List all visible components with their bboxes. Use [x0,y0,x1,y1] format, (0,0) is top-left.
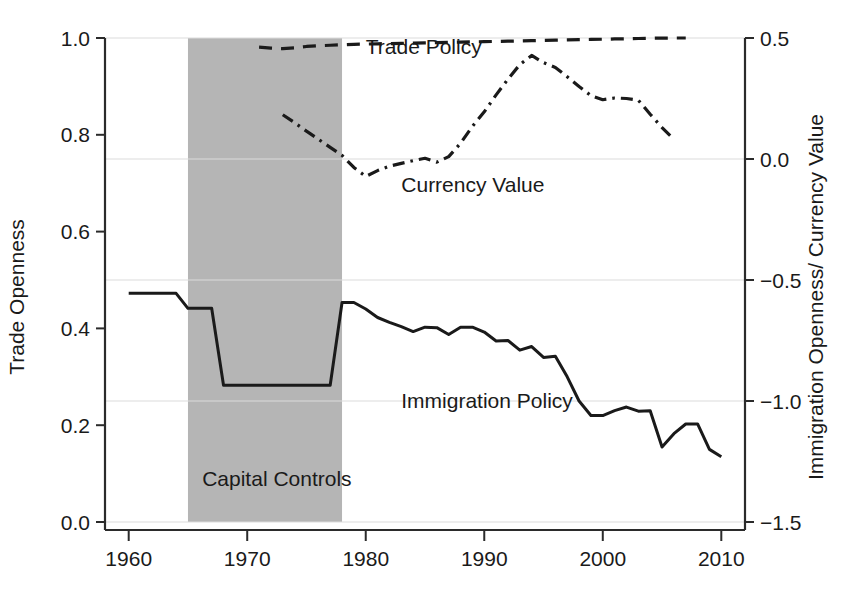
line-chart: 0.00.20.40.60.81.0−1.5−1.0−0.50.00.51960… [0,0,847,594]
y-axis-right-title: Immigration Openness/ Currency Value [804,114,827,480]
series-label-trade-policy: Trade Policy [366,35,482,58]
x-tick-label: 2000 [579,547,626,570]
y-axis-left-title: Trade Openness [5,219,28,375]
x-tick-label: 1970 [224,547,271,570]
y-tick-label-left: 0.2 [61,414,90,437]
y-tick-label-left: 1.0 [61,27,90,50]
y-tick-label-right: 0.5 [760,27,789,50]
y-tick-label-right: −1.0 [760,390,801,413]
series-label-currency-value: Currency Value [401,173,544,196]
x-tick-label: 1960 [105,547,152,570]
y-tick-label-left: 0.8 [61,123,90,146]
chart-container: 0.00.20.40.60.81.0−1.5−1.0−0.50.00.51960… [0,0,847,594]
y-tick-label-left: 0.4 [61,317,91,340]
y-tick-label-left: 0.0 [61,511,90,534]
chart-background [0,0,847,594]
y-tick-label-right: 0.0 [760,148,789,171]
y-tick-label-right: −0.5 [760,269,801,292]
y-tick-label-right: −1.5 [760,511,801,534]
y-tick-label-left: 0.6 [61,220,90,243]
capital-controls-label: Capital Controls [202,467,351,490]
x-tick-label: 1990 [461,547,508,570]
x-tick-label: 1980 [342,547,389,570]
series-label-immigration-policy: Immigration Policy [401,389,573,412]
x-tick-label: 2010 [698,547,745,570]
